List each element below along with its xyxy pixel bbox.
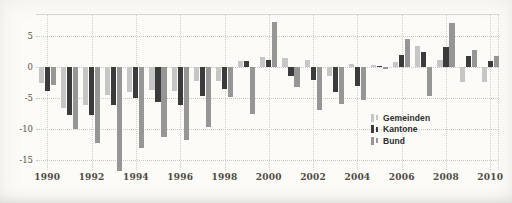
bar-gemeinden-2009	[460, 67, 465, 82]
bar-kantone-2006	[399, 55, 404, 67]
legend-label-gemeinden: Gemeinden	[383, 113, 430, 123]
bar-kantone-2008	[443, 47, 448, 67]
bar-kantone-1991	[67, 67, 72, 115]
x-tick-label-1994: 1994	[119, 172, 153, 182]
bar-bund-2008	[449, 23, 454, 67]
y-tick-label--10: -10	[3, 124, 33, 134]
bar-kantone-1992	[89, 67, 94, 115]
bar-kantone-1995	[155, 67, 160, 102]
gridline-x-1998	[225, 14, 226, 170]
bar-gemeinden-2010	[482, 67, 487, 82]
chart-canvas: 50-5-10-15199019921994199619982000200220…	[0, 0, 512, 203]
bar-kantone-2010	[488, 61, 493, 67]
gridline-x-2004	[357, 14, 358, 170]
bar-bund-1998	[228, 67, 233, 97]
x-tick-label-1998: 1998	[208, 172, 242, 182]
y-tick-label--15: -15	[3, 155, 33, 165]
legend-item-gemeinden: Gemeinden	[371, 112, 430, 124]
gridline-x-2008	[446, 14, 447, 170]
y-tick-label-5: 5	[3, 31, 33, 41]
x-tick-label-2002: 2002	[296, 172, 330, 182]
bar-bund-1991	[73, 67, 78, 129]
bar-kantone-1998	[222, 67, 227, 89]
bar-bund-2000	[272, 22, 277, 67]
bar-gemeinden-2005	[371, 65, 376, 67]
bar-bund-2005	[383, 67, 388, 69]
bar-bund-1996	[184, 67, 189, 140]
bar-bund-2002	[317, 67, 322, 110]
gridline-x-2006	[402, 14, 403, 170]
gridline-y--5	[36, 98, 498, 99]
y-tick-label--5: -5	[3, 93, 33, 103]
bar-gemeinden-2000	[260, 57, 265, 67]
bar-gemeinden-1991	[61, 67, 66, 108]
bar-bund-1995	[161, 67, 166, 137]
bar-kantone-2007	[421, 52, 426, 67]
bar-bund-1990	[51, 67, 56, 85]
x-tick-label-2008: 2008	[429, 172, 463, 182]
legend-label-bund: Bund	[383, 136, 405, 146]
bar-gemeinden-1997	[194, 67, 199, 81]
y-tick-label-0: 0	[3, 62, 33, 72]
bar-gemeinden-2001	[282, 58, 287, 67]
gemeinden-swatch-icon	[371, 114, 383, 122]
bar-kantone-1997	[200, 67, 205, 96]
bar-gemeinden-1996	[172, 67, 177, 91]
bar-bund-1997	[206, 67, 211, 127]
bar-kantone-2003	[333, 67, 338, 92]
bar-bund-2006	[405, 39, 410, 67]
x-tick-label-1992: 1992	[75, 172, 109, 182]
bar-gemeinden-2003	[327, 67, 332, 76]
bar-bund-2001	[294, 67, 299, 87]
bar-gemeinden-2007	[415, 46, 420, 67]
bar-kantone-2000	[266, 60, 271, 67]
bar-bund-1999	[250, 67, 255, 114]
bund-swatch-icon	[371, 137, 383, 145]
bar-gemeinden-1992	[83, 67, 88, 105]
bar-kantone-2005	[377, 66, 382, 67]
x-tick-label-2010: 2010	[473, 172, 507, 182]
bar-bund-2004	[361, 67, 366, 100]
bar-kantone-2009	[466, 56, 471, 67]
bar-kantone-2001	[288, 67, 293, 76]
bar-gemeinden-2006	[393, 62, 398, 67]
bar-kantone-1994	[133, 67, 138, 98]
plot-top-border	[36, 14, 498, 15]
gridline-y--15	[36, 160, 498, 161]
bar-gemeinden-2002	[305, 60, 310, 67]
gridline-x-2000	[269, 14, 270, 170]
plot-right-border	[498, 14, 499, 170]
gridline-y-5	[36, 36, 498, 37]
bar-gemeinden-1999	[238, 61, 243, 67]
bar-gemeinden-2008	[437, 60, 442, 67]
x-tick-label-2006: 2006	[385, 172, 419, 182]
bar-bund-2010	[494, 56, 499, 67]
bar-gemeinden-1994	[127, 67, 132, 92]
legend: Gemeinden Kantone Bund	[371, 112, 430, 147]
bar-bund-2003	[339, 67, 344, 104]
x-tick-label-2000: 2000	[252, 172, 286, 182]
bar-bund-1992	[95, 67, 100, 143]
legend-item-kantone: Kantone	[371, 124, 430, 136]
legend-label-kantone: Kantone	[383, 124, 418, 134]
bar-kantone-2004	[355, 67, 360, 86]
bar-bund-2009	[472, 50, 477, 67]
plot-area: 50-5-10-15199019921994199619982000200220…	[0, 0, 512, 203]
bar-gemeinden-1990	[39, 67, 44, 83]
bar-kantone-1990	[45, 67, 50, 91]
bar-kantone-1993	[111, 67, 116, 105]
bar-gemeinden-2004	[349, 64, 354, 67]
bar-kantone-1999	[244, 61, 249, 67]
bar-bund-2007	[427, 67, 432, 96]
x-tick-label-1990: 1990	[30, 172, 64, 182]
x-tick-label-1996: 1996	[163, 172, 197, 182]
bar-gemeinden-1993	[105, 67, 110, 95]
bar-bund-1993	[117, 67, 122, 171]
bar-gemeinden-1995	[149, 67, 154, 90]
kantone-swatch-icon	[371, 125, 383, 133]
legend-item-bund: Bund	[371, 135, 430, 147]
bar-kantone-2002	[311, 67, 316, 80]
bar-kantone-1996	[178, 67, 183, 105]
gridline-x-2010	[490, 14, 491, 170]
bar-gemeinden-1998	[216, 67, 221, 81]
